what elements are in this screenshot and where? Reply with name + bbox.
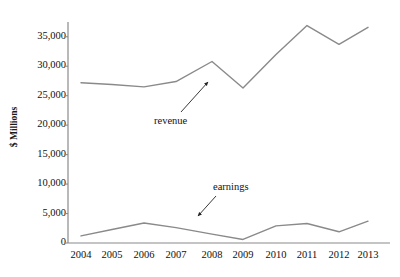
- series-line-earnings: [81, 221, 368, 239]
- line-chart: $ Millions 05,00010,00015,00020,00025,00…: [0, 0, 400, 277]
- series-label-revenue: revenue: [154, 115, 187, 126]
- plot-area: [0, 0, 400, 277]
- revenue-arrow: [181, 82, 208, 112]
- series-label-earnings: earnings: [213, 181, 249, 192]
- series-line-revenue: [81, 26, 368, 88]
- annotation-arrows: [181, 82, 216, 216]
- data-series-lines: [81, 26, 368, 240]
- axis-lines: [65, 22, 391, 243]
- earnings-arrow: [198, 196, 216, 216]
